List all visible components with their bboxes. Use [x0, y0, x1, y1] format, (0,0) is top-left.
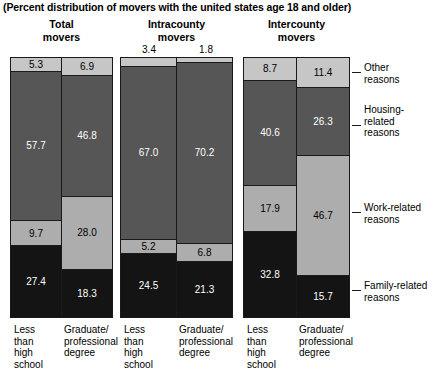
legend-leader-line-work	[352, 212, 361, 213]
bar-intercounty-graduate-professional-degree[interactable]: 11.4 26.3 46.7 15.7	[296, 57, 350, 318]
segment-value: 46.8	[77, 130, 96, 141]
category-label-total-grad: Graduate/ professional degree	[64, 324, 119, 359]
category-label-intercounty-lths: Less than high school	[247, 324, 293, 370]
segment-value: 6.8	[198, 247, 212, 258]
segment-value: 17.9	[260, 203, 279, 214]
segment-value: 32.8	[260, 269, 279, 280]
group-header-line1: Intracounty	[120, 18, 233, 31]
segment-value: 6.9	[80, 61, 94, 72]
bar-total-less-than-high-school[interactable]: 5.3 57.7 9.7 27.4	[10, 57, 62, 318]
outside-value-label-other-intracounty-grad: 1.8	[180, 44, 232, 55]
group-header-line2: movers	[120, 31, 233, 44]
segment-family-related-reasons[interactable]: 15.7	[297, 276, 349, 317]
segment-work-related-reasons[interactable]: 6.8	[177, 244, 232, 262]
segment-family-related-reasons[interactable]: 21.3	[177, 262, 232, 317]
segment-value: 67.0	[139, 147, 158, 158]
segment-housing-related-reasons[interactable]: 26.3	[297, 88, 349, 156]
segment-housing-related-reasons[interactable]: 40.6	[244, 81, 296, 186]
segment-value: 46.7	[313, 210, 332, 221]
chart-title: (Percent distribution of movers with the…	[3, 1, 351, 13]
segment-other-reasons[interactable]: 8.7	[244, 58, 296, 81]
legend-item-work-related-reasons: Work-related reasons	[364, 202, 433, 225]
group-header-line1: Total	[10, 18, 113, 31]
bar-intracounty-less-than-high-school[interactable]: 67.0 5.2 24.5	[120, 57, 177, 318]
segment-work-related-reasons[interactable]: 28.0	[62, 197, 112, 270]
segment-value: 24.5	[139, 280, 158, 291]
segment-family-related-reasons[interactable]: 18.3	[62, 270, 112, 317]
category-label-intracounty-lths: Less than high school	[124, 324, 170, 370]
segment-value: 40.6	[260, 127, 279, 138]
legend-item-other-reasons: Other reasons	[364, 62, 433, 85]
group-header-line2: movers	[243, 31, 350, 44]
segment-value: 11.4	[314, 67, 333, 78]
group-header-line2: movers	[10, 31, 113, 44]
bar-intercounty-less-than-high-school[interactable]: 8.7 40.6 17.9 32.8	[243, 57, 297, 318]
segment-housing-related-reasons[interactable]: 67.0	[121, 67, 176, 240]
segment-value: 15.7	[313, 291, 332, 302]
segment-value: 28.0	[77, 227, 96, 238]
segment-value: 5.3	[29, 59, 43, 70]
segment-other-reasons[interactable]	[121, 58, 176, 67]
group-header-line1: Intercounty	[243, 18, 350, 31]
category-label-total-lths: Less than high school	[14, 324, 60, 370]
segment-other-reasons[interactable]: 11.4	[297, 58, 349, 88]
segment-other-reasons[interactable]: 5.3	[11, 58, 61, 72]
segment-other-reasons[interactable]: 6.9	[62, 58, 112, 76]
segment-work-related-reasons[interactable]: 5.2	[121, 240, 176, 253]
segment-value: 8.7	[263, 63, 277, 74]
group-header-intracounty: Intracounty movers	[120, 18, 233, 43]
bar-intracounty-graduate-professional-degree[interactable]: 70.2 6.8 21.3	[176, 57, 233, 318]
segment-work-related-reasons[interactable]: 17.9	[244, 186, 296, 232]
segment-housing-related-reasons[interactable]: 57.7	[11, 72, 61, 221]
segment-housing-related-reasons[interactable]: 46.8	[62, 76, 112, 197]
category-label-intracounty-grad: Graduate/ professional degree	[179, 324, 234, 359]
group-header-intercounty: Intercounty movers	[243, 18, 350, 43]
segment-family-related-reasons[interactable]: 32.8	[244, 232, 296, 317]
segment-work-related-reasons[interactable]: 46.7	[297, 156, 349, 277]
segment-value: 27.4	[26, 276, 45, 287]
legend-item-housing-related-reasons: Housing- related reasons	[364, 104, 433, 139]
segment-family-related-reasons[interactable]: 27.4	[11, 246, 61, 317]
chart-root: (Percent distribution of movers with the…	[0, 0, 433, 383]
segment-value: 57.7	[26, 140, 45, 151]
legend-item-family-related-reasons: Family-related reasons	[364, 280, 433, 303]
segment-value: 26.3	[313, 116, 332, 127]
legend-leader-line-family	[352, 290, 361, 291]
segment-value: 18.3	[77, 288, 96, 299]
category-label-intercounty-grad: Graduate/ professional degree	[299, 324, 359, 359]
segment-value: 5.2	[142, 241, 156, 252]
outside-value-label-other-intracounty-lths: 3.4	[123, 44, 175, 55]
segment-value: 9.7	[29, 228, 43, 239]
segment-housing-related-reasons[interactable]: 70.2	[177, 63, 232, 245]
segment-value: 70.2	[195, 147, 214, 158]
segment-work-related-reasons[interactable]: 9.7	[11, 221, 61, 246]
group-header-total: Total movers	[10, 18, 113, 43]
bar-total-graduate-professional-degree[interactable]: 6.9 46.8 28.0 18.3	[61, 57, 113, 318]
legend-leader-line-housing	[352, 125, 361, 126]
segment-family-related-reasons[interactable]: 24.5	[121, 254, 176, 317]
legend-leader-line-other	[352, 72, 361, 73]
segment-value: 21.3	[195, 284, 214, 295]
